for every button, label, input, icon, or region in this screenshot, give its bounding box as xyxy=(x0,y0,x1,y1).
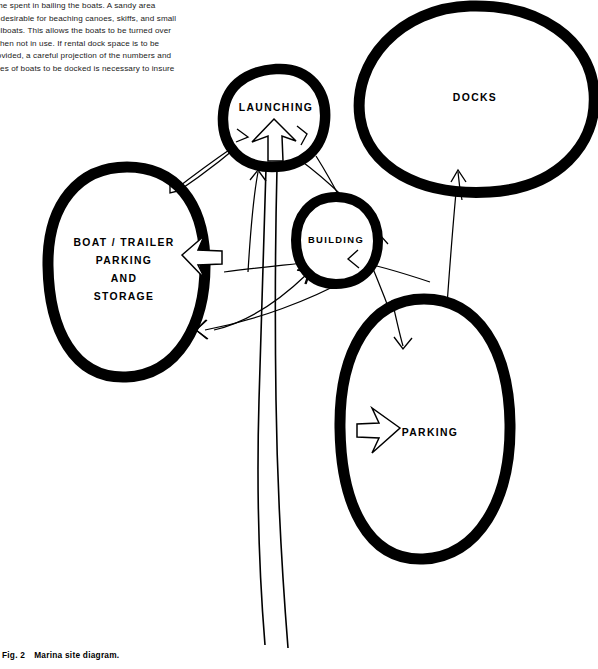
figure-caption-text: Marina site diagram. xyxy=(34,650,119,660)
boat-trailer-label-line3: AND xyxy=(111,273,138,284)
zone-building[interactable]: BUILDING xyxy=(296,197,378,284)
launching-label: LAUNCHING xyxy=(239,102,314,113)
zone-blobs: DOCKS LAUNCHING BOAT / TRAILER PARKING A… xyxy=(48,6,594,559)
figure-caption: Fig. 2Marina site diagram. xyxy=(2,650,119,660)
road-edge-left xyxy=(258,168,266,645)
path-boattrailer-to-building xyxy=(214,275,306,330)
boat-trailer-label-line4: STORAGE xyxy=(94,291,155,302)
path-building-to-launching xyxy=(248,172,258,272)
figure-page: ime spent in bailing the boats. A sandy … xyxy=(0,0,598,669)
parking-label: PARKING xyxy=(402,427,459,438)
marina-site-diagram: DOCKS LAUNCHING BOAT / TRAILER PARKING A… xyxy=(0,0,598,669)
building-label: BUILDING xyxy=(308,234,364,245)
boat-trailer-label-line2: PARKING xyxy=(96,255,153,266)
zone-docks[interactable]: DOCKS xyxy=(359,6,594,192)
docks-label: DOCKS xyxy=(453,92,497,103)
zone-boat-trailer[interactable]: BOAT / TRAILER PARKING AND STORAGE xyxy=(48,167,205,377)
figure-number: Fig. 2 xyxy=(2,650,25,660)
road-edge-right xyxy=(275,168,288,648)
boat-trailer-label-line1: BOAT / TRAILER xyxy=(73,237,174,248)
access-road xyxy=(258,168,288,648)
